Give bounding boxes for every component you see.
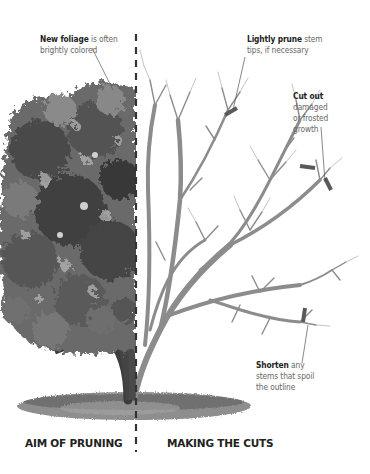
section-label-making-the-cuts: MAKING THE CUTS [167, 437, 273, 449]
annotation-shorten: Shorten any stems that spoil the outline [256, 360, 314, 393]
annotation-new-foliage-bold: New foliage [40, 34, 89, 44]
cut-mark-shorten [303, 308, 305, 322]
cut-mark-frost-1 [300, 166, 315, 168]
pruning-diagram: New foliage is often brightly colored Li… [0, 0, 370, 474]
tree-illustration [0, 0, 370, 474]
annotation-lightly-prune-bold: Lightly prune [247, 34, 302, 44]
annotation-new-foliage: New foliage is often brightly colored [40, 34, 118, 56]
annotation-lightly-prune: Lightly prune stem tips, if necessary [247, 34, 323, 56]
cut-mark-frost-2 [325, 178, 331, 190]
foliage-tree [0, 82, 140, 400]
section-label-aim-of-pruning: AIM OF PRUNING [25, 437, 123, 449]
annotation-cut-out: Cut out damaged or frosted growth [293, 91, 328, 135]
annotation-shorten-bold: Shorten [256, 360, 289, 370]
annotation-cut-out-bold: Cut out [293, 91, 323, 101]
